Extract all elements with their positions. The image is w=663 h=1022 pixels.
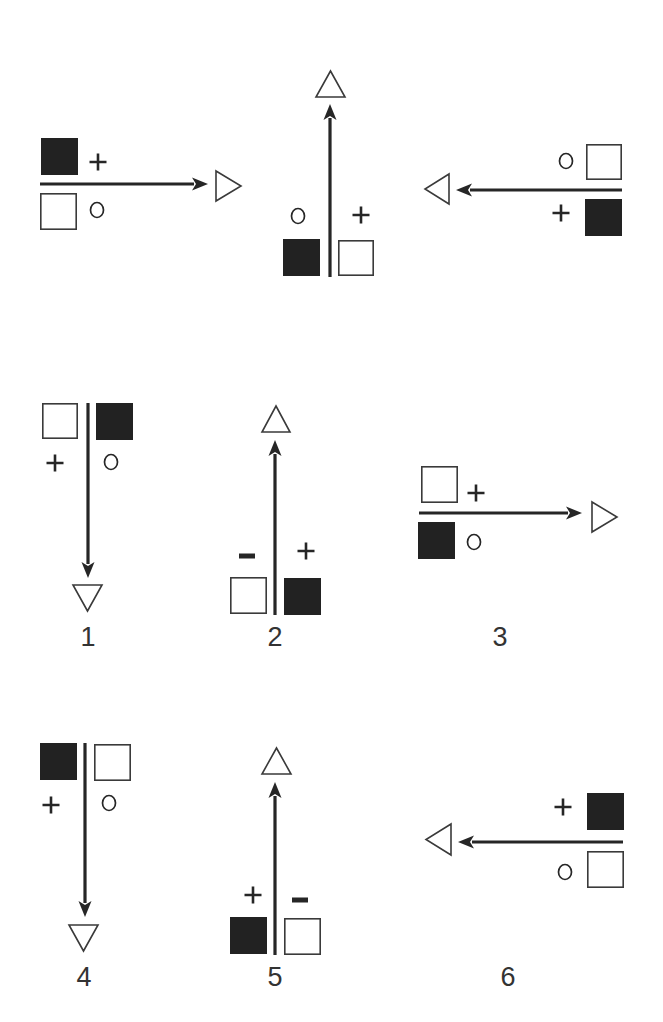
empty-square-icon xyxy=(41,194,76,229)
filled-square-icon xyxy=(283,239,320,276)
circle-icon xyxy=(468,535,481,550)
circle-icon xyxy=(105,455,118,470)
panel-panel-5: 5 xyxy=(230,748,320,992)
empty-square-icon xyxy=(422,467,457,502)
empty-square-icon xyxy=(231,578,266,613)
panel-panel-4: 4 xyxy=(40,743,130,992)
empty-square-icon xyxy=(587,145,621,179)
circle-icon xyxy=(103,796,116,811)
empty-square-icon xyxy=(588,852,623,887)
filled-square-icon xyxy=(585,199,622,236)
plus-icon xyxy=(353,207,370,224)
empty-square-icon xyxy=(43,404,77,438)
arrow-head-icon xyxy=(456,184,472,197)
panel-number-label: 2 xyxy=(267,622,282,652)
goal-triangle-right-icon xyxy=(216,171,241,201)
filled-square-icon xyxy=(41,138,78,175)
panel-top-right xyxy=(425,145,622,236)
goal-triangle-left-icon xyxy=(425,174,449,204)
arrow-head-icon xyxy=(458,836,474,849)
goal-triangle-up-icon xyxy=(262,748,291,774)
minus-icon xyxy=(292,898,308,903)
empty-square-icon xyxy=(339,241,373,275)
circle-icon xyxy=(91,203,104,218)
arrow-head-icon xyxy=(324,104,337,120)
circle-icon xyxy=(559,865,572,880)
panel-panel-1: 1 xyxy=(43,403,133,652)
panel-number-label: 4 xyxy=(76,962,91,992)
panel-panel-2: 2 xyxy=(231,406,321,652)
plus-icon xyxy=(47,455,64,472)
arrow-head-icon xyxy=(269,782,282,798)
panel-number-label: 5 xyxy=(267,962,282,992)
goal-triangle-up-icon xyxy=(262,406,290,432)
diagram-canvas: 123456 xyxy=(0,0,663,1022)
panel-panel-6: 6 xyxy=(426,793,624,992)
filled-square-icon xyxy=(418,522,455,559)
plus-icon xyxy=(468,485,485,502)
panel-number-label: 6 xyxy=(500,962,515,992)
panel-number-label: 1 xyxy=(80,622,95,652)
panel-number-label: 3 xyxy=(492,622,507,652)
empty-square-icon xyxy=(95,745,130,780)
empty-square-icon xyxy=(285,919,320,954)
minus-icon xyxy=(239,554,255,559)
arrow-head-icon xyxy=(79,901,92,917)
plus-icon xyxy=(298,543,315,560)
arrow-head-icon xyxy=(82,562,95,578)
goal-triangle-right-icon xyxy=(592,502,617,532)
goal-triangle-down-icon xyxy=(69,925,98,951)
circle-icon xyxy=(292,209,305,224)
arrow-head-icon xyxy=(566,507,582,520)
filled-square-icon xyxy=(230,917,267,954)
arrow-head-icon xyxy=(192,178,208,191)
plus-icon xyxy=(555,799,572,816)
panel-top-center xyxy=(283,71,373,277)
filled-square-icon xyxy=(284,578,321,615)
plus-icon xyxy=(553,205,570,222)
plus-icon xyxy=(90,154,107,171)
panel-top-left xyxy=(40,138,241,229)
filled-square-icon xyxy=(96,403,133,440)
panel-panel-3: 3 xyxy=(418,467,617,652)
goal-triangle-up-icon xyxy=(316,71,345,97)
filled-square-icon xyxy=(40,743,77,780)
plus-icon xyxy=(245,887,262,904)
plus-icon xyxy=(43,797,60,814)
goal-triangle-down-icon xyxy=(73,585,102,611)
arrow-head-icon xyxy=(269,440,282,456)
circle-icon xyxy=(560,154,573,169)
goal-triangle-left-icon xyxy=(426,824,451,855)
filled-square-icon xyxy=(587,793,624,830)
